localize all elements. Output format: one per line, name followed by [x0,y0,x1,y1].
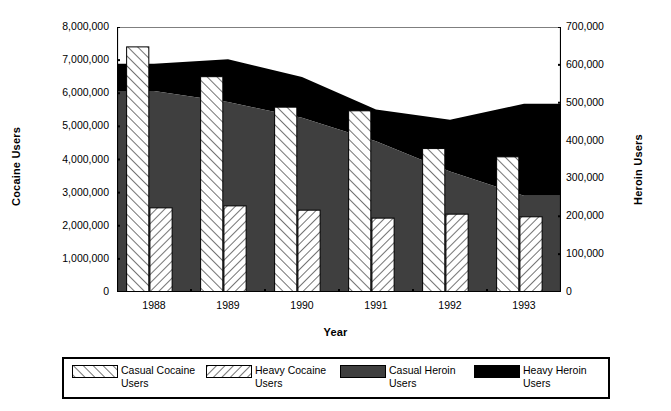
bar-casual-cocaine [201,77,223,292]
y-axis-left-tick-label: 1,000,000 [62,253,109,264]
bar-casual-cocaine [497,157,519,292]
legend-swatch-hatch-backslash-swatch [72,365,118,378]
chart-legend: Casual CocaineUsersHeavy CocaineUsersCas… [62,357,610,399]
bar-heavy-cocaine [446,214,468,292]
legend-item: Casual CocaineUsers [68,364,202,390]
bar-casual-cocaine [275,107,297,292]
bar-heavy-cocaine [372,218,394,292]
x-axis-tick-label: 1988 [142,299,165,311]
bar-heavy-cocaine [298,210,320,292]
legend-swatch-hatch-forwardslash-swatch [206,365,252,378]
plot-area [117,27,561,292]
legend-label-line2: Users [523,377,587,390]
legend-label-line1: Heavy Cocaine [255,364,326,377]
bar-casual-cocaine [127,47,149,292]
y-axis-right-tick-label: 700,000 [566,21,604,32]
legend-item: Heavy HeroinUsers [470,364,604,390]
bar-heavy-cocaine [224,206,246,292]
y-axis-left-tick-label: 6,000,000 [62,87,109,98]
y-axis-left-tick-label: 0 [103,286,109,297]
chart-container: Cocaine Users Heroin Users Year 8,000,00… [0,0,671,411]
y-axis-right-tick-label: 300,000 [566,172,604,183]
y-axis-left-title: Cocaine Users [8,96,24,236]
bar-heavy-cocaine [520,217,542,292]
legend-label-line1: Casual Heroin [389,364,456,377]
legend-swatch-gray-swatch [340,365,386,378]
legend-item: Casual HeroinUsers [336,364,470,390]
bar-heavy-cocaine [150,208,172,292]
legend-label: Casual CocaineUsers [121,364,195,390]
legend-swatch-black-swatch [474,365,520,378]
legend-label-line2: Users [255,377,326,390]
legend-label-line2: Users [121,377,195,390]
y-axis-left-tick-label: 2,000,000 [62,220,109,231]
y-axis-right-tick-label: 400,000 [566,135,604,146]
y-axis-left-tick-label: 4,000,000 [62,154,109,165]
x-axis-title: Year [0,326,671,338]
y-axis-right-tick-label: 600,000 [566,59,604,70]
y-axis-left-tick-label: 7,000,000 [62,54,109,65]
y-axis-right-tick-label: 200,000 [566,210,604,221]
x-axis-tick-label: 1989 [216,299,239,311]
x-axis-tick-label: 1992 [438,299,461,311]
bar-casual-cocaine [349,111,371,292]
bar-casual-cocaine [423,149,445,292]
y-axis-right-title: Heroin Users [630,110,646,230]
y-axis-right-tick-label: 100,000 [566,248,604,259]
x-axis-tick-label: 1993 [512,299,535,311]
y-axis-right-tick-label: 500,000 [566,97,604,108]
legend-label-line1: Casual Cocaine [121,364,195,377]
legend-label: Heavy HeroinUsers [523,364,587,390]
y-axis-left-tick-label: 8,000,000 [62,21,109,32]
y-axis-left-tick-label: 5,000,000 [62,120,109,131]
y-axis-right-tick-label: 0 [566,286,572,297]
legend-label-line1: Heavy Heroin [523,364,587,377]
legend-label-line2: Users [389,377,456,390]
y-axis-left-tick-label: 3,000,000 [62,187,109,198]
legend-label: Casual HeroinUsers [389,364,456,390]
x-axis-tick-label: 1990 [290,299,313,311]
x-axis-tick-label: 1991 [364,299,387,311]
x-axis-ticks: 198819891990199119921993 [0,299,671,315]
legend-item: Heavy CocaineUsers [202,364,336,390]
plot-svg [117,27,561,292]
legend-label: Heavy CocaineUsers [255,364,326,390]
